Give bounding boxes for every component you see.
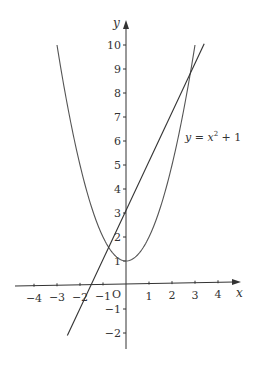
y-axis-label: y [112, 16, 120, 30]
y-tick-label: 8 [114, 87, 121, 100]
x-tick-label: 2 [169, 289, 176, 302]
origin-label: O [112, 288, 121, 301]
y-tick-label: 5 [114, 159, 121, 172]
graph-figure: −4−3−2−11234−2−112345678910 x y O y = x2… [0, 0, 256, 370]
x-tick-label: −3 [49, 291, 65, 304]
parabola-label-main: y = x [184, 131, 214, 144]
y-tick-label: 10 [107, 39, 121, 52]
y-tick-label: 6 [114, 135, 121, 148]
y-axis-arrow-icon [123, 20, 129, 29]
x-axis-label: x [236, 286, 243, 300]
x-axis [15, 282, 234, 286]
straight-line [67, 44, 204, 336]
y-tick-label: 4 [114, 183, 121, 196]
y-tick-label: −1 [105, 303, 121, 316]
y-tick-label: 7 [114, 111, 121, 124]
x-tick-label: 4 [215, 288, 222, 301]
x-tick-label: −4 [26, 292, 42, 305]
y-tick-label: 9 [114, 63, 121, 76]
y-tick-label: 3 [114, 207, 121, 220]
parabola-label: y = x2 + 1 [184, 130, 241, 144]
x-axis-arrow-icon [232, 279, 241, 285]
parabola-label-tail: + 1 [218, 131, 241, 144]
axes [15, 26, 234, 349]
x-tick-label: 1 [146, 290, 153, 303]
x-tick-label: −1 [95, 290, 111, 303]
x-tick-label: 3 [192, 289, 199, 302]
y-tick-label: 1 [114, 255, 121, 268]
y-tick-label: −2 [105, 327, 121, 340]
